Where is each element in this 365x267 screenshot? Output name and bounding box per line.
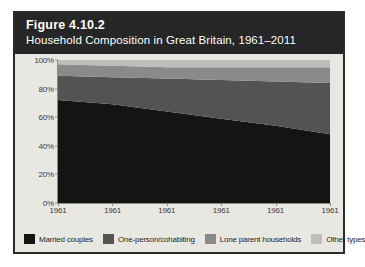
plot-axes: 0%20%40%60%80%100% 196119611961196119611…: [57, 60, 330, 204]
y-axis-tick: [55, 88, 58, 89]
legend-item: Lone parent households: [205, 234, 301, 244]
y-axis-tick: [55, 117, 58, 118]
x-axis-label: 1961: [104, 206, 121, 215]
chart-legend: Married couplesOne-person/cohabitingLone…: [15, 226, 343, 252]
y-axis-label: 20%: [39, 170, 54, 179]
legend-swatch: [103, 234, 114, 244]
figure-title: Household Composition in Great Britain, …: [26, 33, 333, 47]
y-axis-label: 60%: [39, 113, 54, 122]
legend-item: Other types: [311, 234, 365, 244]
legend-label: One-person/cohabiting: [118, 235, 195, 244]
x-axis-label: 1961: [322, 206, 339, 215]
figure-header: Figure 4.10.2 Household Composition in G…: [15, 13, 343, 54]
y-axis-tick: [55, 60, 58, 61]
y-axis-label: 40%: [39, 141, 54, 150]
legend-swatch: [24, 234, 35, 244]
legend-swatch: [205, 234, 216, 244]
legend-item: Married couples: [24, 234, 93, 244]
x-axis-label: 1961: [267, 206, 284, 215]
y-axis-tick: [55, 174, 58, 175]
legend-label: Married couples: [39, 235, 93, 244]
figure-number: Figure 4.10.2: [26, 18, 333, 32]
x-axis-label: 1961: [50, 206, 67, 215]
legend-swatch: [311, 234, 322, 244]
x-axis-label: 1961: [213, 206, 230, 215]
x-axis-label: 1961: [158, 206, 175, 215]
y-axis-label: 80%: [39, 84, 54, 93]
legend-label: Lone parent households: [220, 235, 301, 244]
plot-region: 0%20%40%60%80%100% 196119611961196119611…: [15, 54, 343, 222]
legend-label: Other types: [326, 235, 365, 244]
figure-card: Figure 4.10.2 Household Composition in G…: [13, 11, 345, 254]
legend-item: One-person/cohabiting: [103, 234, 195, 244]
chart-svg: [58, 60, 330, 203]
y-axis-tick: [55, 145, 58, 146]
stacked-area-chart: [58, 60, 330, 203]
y-axis-label: 100%: [34, 56, 54, 65]
